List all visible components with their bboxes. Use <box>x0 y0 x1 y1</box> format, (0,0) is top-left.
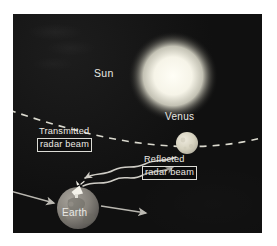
transmitted-caption-line2: radar beam <box>37 138 92 152</box>
outgoing-motion-arrow <box>101 206 146 213</box>
incoming-motion-arrow <box>13 190 54 203</box>
reflected-caption-line1: Reflected <box>142 154 197 165</box>
transmitted-beam-caption: Transmitted radar beam <box>37 126 92 152</box>
reflected-caption-line2: radar beam <box>142 166 197 180</box>
reflected-beam-caption: Reflected radar beam <box>142 154 197 180</box>
sun-label: Sun <box>94 67 114 79</box>
venus-label: Venus <box>165 111 194 123</box>
sky-panel: Sun Venus Earth Transmitted radar beam R… <box>13 14 262 233</box>
earth-label: Earth <box>62 207 87 219</box>
venus-body <box>176 132 198 154</box>
sun-body <box>128 31 218 121</box>
radar-ranging-diagram: Sun Venus Earth Transmitted radar beam R… <box>0 0 277 246</box>
transmitted-caption-line1: Transmitted <box>37 126 92 137</box>
diagram-vector-layer <box>13 14 262 233</box>
